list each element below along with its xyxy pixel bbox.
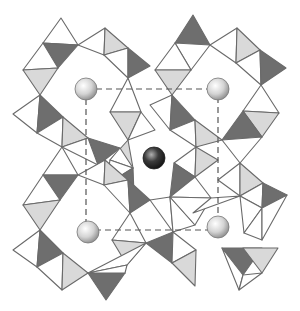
triangle-white [243,85,279,113]
crystal-structure-diagram [0,0,300,311]
triangle-white [110,78,141,112]
triangle-light [155,70,191,95]
triangle-white [104,180,130,213]
triangle-white [112,213,146,243]
sphere-top-left [75,78,97,100]
triangle-white [150,197,173,232]
triangle-white [43,18,78,45]
triangle-white [239,273,262,290]
triangle-light [23,68,58,95]
triangle-dark [128,180,150,213]
triangle-white [13,230,40,267]
triangle-dark [260,50,286,85]
sphere-bottom-right [207,216,229,238]
triangle-light [195,147,218,177]
sphere-center [143,147,165,169]
triangle-dark [88,273,125,300]
triangle-white [13,95,40,133]
triangle-white [222,137,262,163]
triangle-white [210,28,237,63]
diagram-canvas [0,0,300,311]
triangle-dark [146,232,173,263]
triangle-white [78,160,105,185]
sphere-top-right [207,78,229,100]
triangle-light [23,200,60,230]
sphere-bottom-left [77,221,99,243]
triangle-white [218,163,240,196]
triangle-dark [175,15,210,45]
triangle-white [150,95,172,130]
triangle-dark [128,48,150,78]
triangle-light [62,253,88,290]
triangle-white [78,28,105,55]
